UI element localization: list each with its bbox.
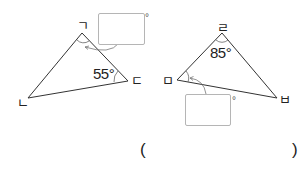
degree-symbol-right: ° — [232, 96, 236, 106]
vertex-label-nieun: ㄴ — [17, 96, 29, 109]
angle-arc-top-vertex-right — [216, 40, 228, 42]
angle-arc-left-vertex-right — [186, 71, 189, 82]
close-parenthesis: ) — [292, 141, 298, 158]
right-triangle — [177, 33, 277, 98]
vertex-label-giyeok: ㄱ — [77, 19, 89, 32]
angle-arc-top-vertex — [77, 40, 89, 43]
vertex-label-mieum: ㅁ — [162, 74, 174, 87]
given-angle-85: 85° — [210, 45, 231, 60]
degree-symbol-left: ° — [145, 13, 149, 23]
vertex-label-bieup: ㅂ — [279, 93, 291, 106]
final-answer-field[interactable] — [152, 141, 290, 161]
vertex-label-digeut: ㄷ — [131, 74, 143, 87]
angle-arc-right-vertex — [114, 71, 118, 82]
open-parenthesis: ( — [140, 141, 146, 158]
vertex-label-rieul: ㄹ — [217, 21, 229, 34]
answer-box-angle-mieum[interactable] — [185, 94, 231, 126]
answer-box-angle-giyeok[interactable] — [98, 13, 145, 45]
given-angle-55: 55° — [93, 66, 114, 81]
